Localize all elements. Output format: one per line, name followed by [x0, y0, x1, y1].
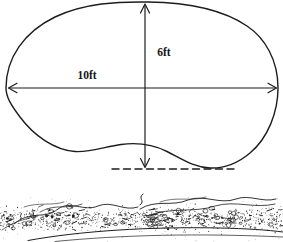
pond-diagram-canvas: 10ft 6ft	[0, 0, 283, 242]
ground-texture	[0, 194, 283, 242]
pond-outline	[6, 2, 278, 168]
depth-dimension-arrow	[141, 4, 150, 168]
width-dimension-arrow	[9, 83, 277, 93]
pond-diagram: 10ft 6ft	[0, 0, 283, 242]
depth-dimension-label: 6ft	[157, 46, 171, 58]
width-dimension-label: 10ft	[77, 69, 96, 81]
